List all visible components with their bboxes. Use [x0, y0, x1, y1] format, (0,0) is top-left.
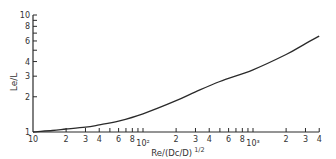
x-tick-label: 2 [284, 135, 289, 144]
x-tick-label: 10² [136, 139, 149, 148]
x-tick-label: 3 [83, 135, 88, 144]
y-axis-label: Le/L [9, 73, 19, 91]
y-tick-label: 2 [25, 93, 30, 102]
x-tick-label: 2 [174, 135, 179, 144]
axes [33, 15, 319, 132]
y-tick-label: 3 [25, 72, 30, 81]
x-tick-label: 8 [130, 135, 135, 144]
y-tick-label: 4 [25, 58, 30, 67]
y-axis-ticks: 12346810 [20, 11, 37, 137]
x-axis-ticks: 102346810²2346810³234 [28, 128, 322, 148]
x-tick-label: 4 [207, 135, 212, 144]
x-tick-label: 6 [116, 135, 121, 144]
x-tick-label: 2 [64, 135, 69, 144]
x-tick-label: 10 [28, 135, 38, 144]
x-axis-label: Re/(Dc/D) 1/2 [151, 146, 204, 158]
y-tick-label: 10 [20, 11, 30, 20]
x-tick-label: 4 [317, 135, 322, 144]
x-tick-label: 8 [240, 135, 245, 144]
x-tick-label: 4 [97, 135, 102, 144]
data-curve [33, 36, 319, 132]
x-tick-label: 6 [226, 135, 231, 144]
x-tick-label: 3 [193, 135, 198, 144]
chart: 12346810 102346810²2346810³234 Le/L Re/(… [0, 0, 336, 159]
y-tick-label: 8 [25, 22, 30, 31]
x-tick-label: 10³ [246, 139, 259, 148]
y-tick-label: 6 [25, 37, 30, 46]
x-tick-label: 3 [303, 135, 308, 144]
